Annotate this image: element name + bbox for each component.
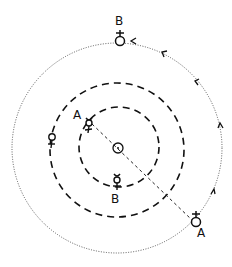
earth-b-label: B [115,15,123,27]
earth-b-icon [116,30,125,46]
earth-a-label: A [197,227,205,239]
earth-a-icon [192,211,201,227]
mercury-b-label: B [111,193,119,205]
venus-icon [48,134,55,148]
mercury-a-label: A [73,109,81,121]
sun-icon [113,143,123,153]
sight-line [92,124,192,220]
